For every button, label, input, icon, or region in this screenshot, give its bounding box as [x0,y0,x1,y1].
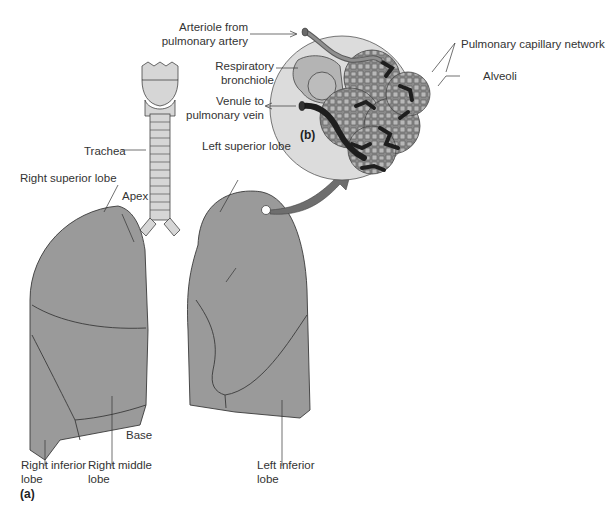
label-right-middle-lobe-line1: Right middle [88,458,152,472]
label-left-inferior-lobe: Left inferior lobe [257,458,315,486]
panel-label-b: (b) [300,128,315,142]
left-lung [187,191,310,418]
alveoli-detail [270,28,430,180]
label-right-middle-lobe: Right middle lobe [88,458,152,486]
label-right-inferior-lobe: Right inferior lobe [21,458,86,486]
trachea [140,62,180,236]
panel-label-a: (a) [20,487,35,501]
label-base: Base [126,428,152,442]
label-venule: Venule to pulmonary vein [150,94,264,122]
label-pulmonary-capillary-network: Pulmonary capillary network [461,37,605,51]
label-right-inferior-lobe-line1: Right inferior [21,458,86,472]
lungs-diagram [0,0,616,516]
label-respiratory-bronchiole: Respiratory bronchiole [180,59,274,87]
label-respiratory-bronchiole-line1: Respiratory [180,59,274,73]
label-right-middle-lobe-line2: lobe [88,472,152,486]
label-respiratory-bronchiole-line2: bronchiole [180,73,274,87]
label-arteriole: Arteriole from pulmonary artery [150,20,248,48]
label-arteriole-line1: Arteriole from [150,20,248,34]
label-alveoli: Alveoli [483,69,517,83]
label-apex: Apex [122,189,148,203]
label-arteriole-line2: pulmonary artery [150,34,248,48]
label-left-inferior-lobe-line1: Left inferior [257,458,315,472]
right-lung [30,206,148,460]
label-venule-line1: Venule to [150,94,264,108]
label-venule-line2: pulmonary vein [150,108,264,122]
label-left-inferior-lobe-line2: lobe [257,472,315,486]
label-left-superior-lobe: Left superior lobe [202,139,291,153]
label-right-superior-lobe: Right superior lobe [20,171,117,185]
label-right-inferior-lobe-line2: lobe [21,472,86,486]
label-trachea: Trachea [84,144,126,158]
